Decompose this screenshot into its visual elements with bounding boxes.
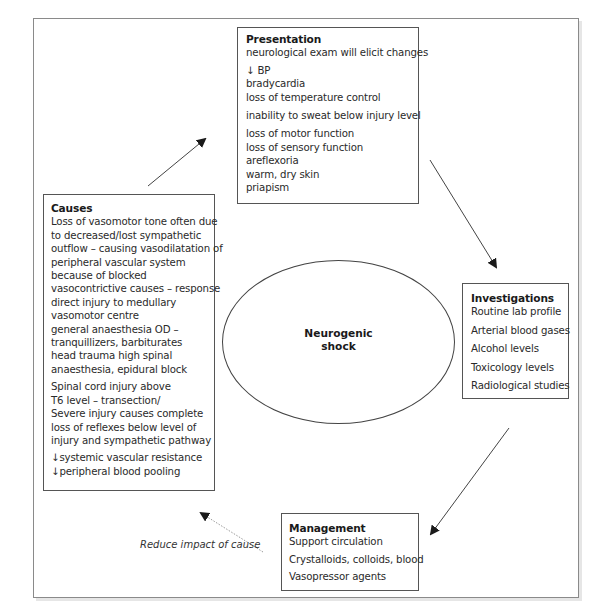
presentation-title: Presentation [246, 33, 410, 46]
causes-item: head trauma high spinal [51, 349, 207, 362]
arrow-investigations-to-management [431, 428, 509, 534]
causes-item: ↓systemic vascular resistance [51, 451, 207, 464]
arrow-causes-to-presentation [148, 139, 205, 186]
causes-item: ↓peripheral blood pooling [51, 465, 207, 478]
causes-item: Loss of vasomotor tone often due [51, 215, 207, 228]
investigations-title: Investigations [471, 292, 560, 305]
presentation-item: neurological exam will elicit changes [246, 46, 410, 59]
causes-item: loss of reflexes below level of [51, 421, 207, 434]
presentation-item: loss of sensory function [246, 141, 410, 154]
management-item: Crystalloids, colloids, blood [289, 553, 411, 566]
arrow-presentation-to-investigations [430, 160, 496, 267]
presentation-item: loss of motor function [246, 127, 410, 140]
management-item: Support circulation [289, 535, 411, 548]
causes-item: outflow – causing vasodilatation of [51, 242, 207, 255]
causes-item: general anaesthesia OD – [51, 323, 207, 336]
causes-item: T6 level – transection/ [51, 394, 207, 407]
causes-item: Severe injury causes complete [51, 407, 207, 420]
causes-item: peripheral vascular system [51, 256, 207, 269]
investigations-item: Arterial blood gases [471, 324, 560, 337]
investigations-item: Radiological studies [471, 379, 560, 392]
investigations-box: Investigations Routine lab profile Arter… [462, 283, 569, 399]
presentation-item: ↓ BP [246, 64, 410, 77]
management-title: Management [289, 522, 411, 535]
investigations-item: Routine lab profile [471, 305, 560, 318]
reduce-impact-label: Reduce impact of cause [140, 539, 260, 550]
causes-item: Spinal cord injury above [51, 380, 207, 393]
causes-item: direct injury to medullary [51, 296, 207, 309]
causes-title: Causes [51, 202, 207, 215]
causes-item: injury and sympathetic pathway [51, 434, 207, 447]
causes-item: to decreased/lost sympathetic [51, 229, 207, 242]
management-box: Management Support circulation Crystallo… [281, 513, 419, 591]
causes-box: Causes Loss of vasomotor tone often due … [43, 194, 215, 491]
presentation-item: priapism [246, 181, 410, 194]
causes-item: vasocontrictive causes – response [51, 282, 207, 295]
causes-item: because of blocked [51, 269, 207, 282]
presentation-item: warm, dry skin [246, 168, 410, 181]
causes-item: vasomotor centre [51, 309, 207, 322]
presentation-box: Presentation neurological exam will elic… [237, 27, 419, 204]
presentation-item: bradycardia [246, 77, 410, 90]
causes-item: anaesthesia, epidural block [51, 363, 207, 376]
center-label-line2: shock [222, 340, 455, 353]
center-label: Neurogenic shock [222, 327, 455, 353]
causes-item: tranquillizers, barbiturates [51, 336, 207, 349]
presentation-item: inability to sweat below injury level [246, 109, 410, 122]
investigations-item: Toxicology levels [471, 361, 560, 374]
presentation-item: areflexoria [246, 154, 410, 167]
presentation-item: loss of temperature control [246, 91, 410, 104]
center-label-line1: Neurogenic [222, 327, 455, 340]
investigations-item: Alcohol levels [471, 342, 560, 355]
management-item: Vasopressor agents [289, 570, 411, 583]
